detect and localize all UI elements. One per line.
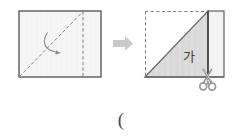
figure-container: 가 ( [0, 0, 250, 137]
right-panel-folded-figure: 가 [145, 11, 224, 90]
transition-arrow-shape [113, 36, 133, 51]
transition-arrow [113, 36, 133, 51]
region-label-ga: 가 [183, 49, 195, 64]
paper-rectangle-fill [19, 11, 101, 77]
paper-folding-diagram: 가 ( [0, 0, 250, 137]
left-panel-unfolded-rectangle [19, 11, 101, 77]
caption-parenthesis: ( [118, 109, 124, 131]
